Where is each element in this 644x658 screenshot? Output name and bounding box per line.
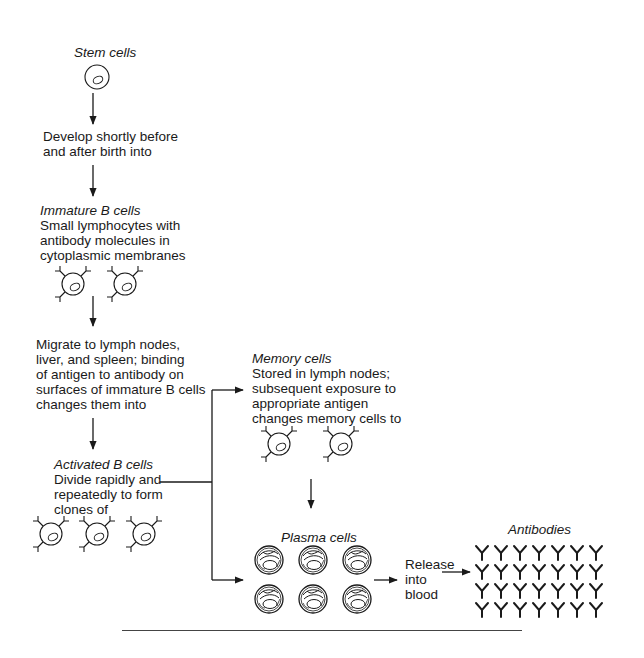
immature-line: Small lymphocytes with [40,218,186,233]
activated-line: repeatedly to form [54,487,163,502]
immature-b-cells-block: Immature B cells Small lymphocytes with … [40,203,186,263]
activated-line: Divide rapidly and [54,472,163,487]
stem-cells-title: Stem cells [74,45,136,60]
develop-step-text: Develop shortly before and after birth i… [43,129,178,159]
memory-line: subsequent exposure to [252,381,401,396]
bottom-divider [122,630,522,631]
immature-b-cell-icons [55,266,143,302]
memory-cells-title: Memory cells [252,351,401,366]
release-into-blood-text: Release into blood [405,557,455,602]
memory-cells-block: Memory cells Stored in lymph nodes; subs… [252,351,401,426]
migrate-line: surfaces of immature B cells [36,382,206,397]
immature-line: cytoplasmic membranes [40,248,186,263]
activated-b-cells-title: Activated B cells [54,457,163,472]
activated-b-cells-block: Activated B cells Divide rapidly and rep… [54,457,163,517]
develop-line: and after birth into [43,144,178,159]
migrate-line: liver, and spleen; binding [36,352,206,367]
migrate-line: Migrate to lymph nodes, [36,337,206,352]
memory-line: Stored in lymph nodes; [252,366,401,381]
activated-line: clones of [54,502,163,517]
branch-connector [160,390,243,580]
migrate-line: of antigen to antibody on [36,367,206,382]
develop-line: Develop shortly before [43,129,178,144]
immature-line: antibody molecules in [40,233,186,248]
activated-b-cell-icons [33,516,162,552]
memory-cell-icons [261,426,359,462]
memory-line: changes memory cells to [252,411,401,426]
antibody-icons [476,546,602,617]
antibodies-title: Antibodies [508,522,571,537]
release-line: into [405,572,455,587]
stem-cell-icon [85,65,109,89]
diagram-graphics [0,0,644,658]
immature-b-cells-title: Immature B cells [40,203,186,218]
release-line: blood [405,587,455,602]
release-line: Release [405,557,455,572]
plasma-cells-title: Plasma cells [281,530,357,545]
memory-line: appropriate antigen [252,396,401,411]
migrate-step-text: Migrate to lymph nodes, liver, and splee… [36,337,206,412]
plasma-cell-icons [255,546,371,613]
migrate-line: changes them into [36,397,206,412]
